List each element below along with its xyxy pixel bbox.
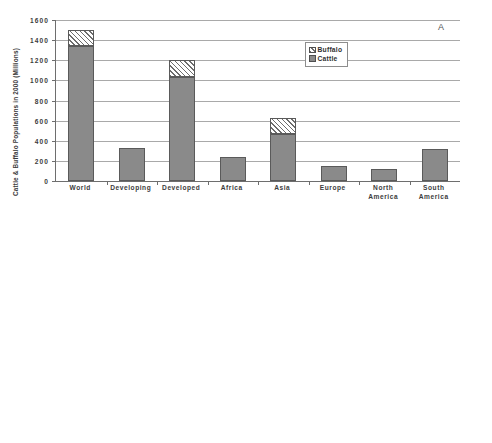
y-axis-tick-label: 800 [9, 97, 49, 104]
bar-asia [270, 118, 296, 181]
gridline [56, 40, 460, 41]
bar-segment-buffalo [270, 118, 296, 134]
y-axis-tick [52, 161, 56, 162]
gridline [56, 121, 460, 122]
bar-developed [169, 60, 195, 181]
bar-segment-cattle [270, 134, 296, 181]
bar-segment-cattle [422, 149, 448, 181]
bar-world [68, 30, 94, 181]
gridline [56, 161, 460, 162]
gridline [56, 60, 460, 61]
y-axis-tick-label: 1600 [9, 17, 49, 24]
bar-europe [321, 166, 347, 181]
gridline [56, 80, 460, 81]
y-axis-tick [52, 101, 56, 102]
y-axis-tick [52, 40, 56, 41]
bar-segment-cattle [220, 157, 246, 181]
legend-label-buffalo: Buffalo [318, 46, 343, 53]
bar-segment-cattle [321, 166, 347, 181]
legend-label-cattle: Cattle [318, 55, 338, 62]
panel-label-a: A [438, 22, 445, 32]
cattle-swatch-icon [309, 55, 316, 62]
bar-south-america [422, 149, 448, 181]
chart-panel-a: Cattle & Buffalo Populations in 2000 (Mi… [0, 0, 492, 221]
y-axis-tick [52, 80, 56, 81]
y-axis-tick [52, 121, 56, 122]
y-axis-tick-label: 1200 [9, 57, 49, 64]
y-axis-tick [52, 141, 56, 142]
bar-north-america [371, 169, 397, 181]
legend-a: Buffalo Cattle [305, 42, 348, 67]
bar-segment-buffalo [169, 60, 195, 77]
bar-developing [119, 148, 145, 181]
y-axis-tick-label: 0 [9, 178, 49, 185]
gridline [56, 141, 460, 142]
y-axis-tick-label: 400 [9, 137, 49, 144]
bar-segment-cattle [371, 169, 397, 181]
gridline [56, 20, 460, 21]
y-axis-tick [52, 20, 56, 21]
bar-africa [220, 157, 246, 181]
bar-segment-cattle [169, 77, 195, 181]
y-axis-tick [52, 181, 56, 182]
bar-segment-cattle [119, 148, 145, 181]
y-axis-tick-label: 1400 [9, 37, 49, 44]
legend-item-buffalo: Buffalo [309, 46, 342, 55]
legend-item-cattle: Cattle [309, 54, 342, 63]
y-axis-tick-label: 1000 [9, 77, 49, 84]
y-axis-tick-label: 200 [9, 157, 49, 164]
bar-segment-buffalo [68, 30, 94, 47]
chart-panel-b: Estimate of CH4 Emissions from Cattle & … [0, 221, 492, 443]
plot-area-a: 02004006008001000120014001600 [55, 20, 460, 182]
x-axis-label: SouthAmerica [403, 184, 466, 201]
bar-segment-cattle [68, 46, 94, 181]
gridline [56, 101, 460, 102]
y-axis-tick [52, 60, 56, 61]
y-axis-tick-label: 600 [9, 117, 49, 124]
buffalo-swatch-icon [309, 47, 316, 54]
